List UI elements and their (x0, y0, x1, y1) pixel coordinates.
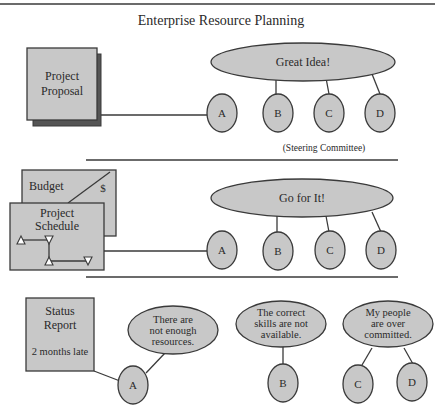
node-c: C (314, 94, 344, 132)
bubble-line: not enough (150, 325, 198, 336)
node-b: B (268, 364, 298, 402)
node-d: D (397, 363, 427, 401)
node-label: B (274, 107, 281, 119)
project-proposal-document: Project Proposal (27, 48, 101, 126)
node-d: D (366, 231, 396, 269)
node-a: A (207, 231, 237, 269)
node-label: B (274, 245, 281, 257)
bubble-people-over-committed: My people are over committed. (343, 301, 433, 347)
connector-d (372, 212, 381, 232)
stage-3: Status Report 2 months late There are no… (26, 298, 433, 404)
bubble-line: skills are not (254, 318, 308, 329)
dollar-icon: $ (100, 182, 106, 194)
bubble-line: resources. (152, 336, 194, 347)
status-report-line-2: Report (44, 318, 77, 332)
connector-d-to-bubble (404, 348, 413, 364)
node-label: D (376, 107, 384, 119)
budget-label: Budget (29, 179, 64, 193)
connector-report-to-a (94, 371, 120, 381)
connector-c (326, 216, 329, 232)
bubble-line: There are (153, 314, 193, 325)
node-label: D (408, 376, 416, 388)
node-d: D (365, 94, 395, 132)
bubble-line: committed. (364, 329, 412, 340)
node-a: A (207, 94, 237, 132)
status-report-note: 2 months late (32, 346, 89, 357)
node-label: B (279, 377, 286, 389)
connector-d (372, 74, 380, 94)
node-label: D (377, 244, 385, 256)
diagram-title: Enterprise Resource Planning (138, 13, 304, 28)
schedule-line-1: Project (40, 206, 75, 220)
connector-c-to-bubble (362, 348, 372, 365)
erp-diagram: Enterprise Resource Planning Project Pro… (0, 0, 442, 412)
node-b: B (263, 94, 293, 132)
stage-1: Project Proposal Great Idea! A B C D (St (27, 43, 395, 154)
ellipse-label: Go for It! (279, 191, 325, 205)
connector-a-to-bubble (146, 353, 165, 373)
bubble-line: My people (365, 307, 411, 318)
bubble-skills-not-available: The correct skills are not available. (236, 301, 326, 347)
node-c: C (315, 231, 345, 269)
great-idea-ellipse: Great Idea! (211, 43, 395, 81)
document-line-2: Proposal (41, 84, 84, 98)
bubble-line: The correct (257, 307, 305, 318)
bubble-line: are over (371, 318, 406, 329)
ellipse-label: Great Idea! (276, 55, 330, 69)
node-c: C (343, 365, 373, 403)
status-report-line-1: Status (45, 304, 75, 318)
node-label: C (354, 378, 361, 390)
node-label: A (218, 107, 226, 119)
go-for-it-ellipse: Go for It! (211, 179, 393, 217)
node-label: A (218, 244, 226, 256)
node-b: B (263, 232, 293, 270)
document-line-1: Project (45, 69, 80, 83)
stage-2: Budget $ Project Schedule Go for It! (10, 170, 396, 270)
steering-committee-caption: (Steering Committee) (283, 143, 366, 154)
node-label: C (326, 244, 333, 256)
node-label: A (129, 379, 137, 391)
node-a: A (118, 366, 148, 404)
bubble-not-enough-resources: There are not enough resources. (128, 306, 218, 354)
status-report-document: Status Report 2 months late (26, 298, 94, 371)
bubble-line: available. (261, 329, 302, 340)
project-schedule-document: Project Schedule (10, 203, 104, 270)
node-label: C (325, 107, 332, 119)
schedule-line-2: Schedule (35, 219, 79, 233)
